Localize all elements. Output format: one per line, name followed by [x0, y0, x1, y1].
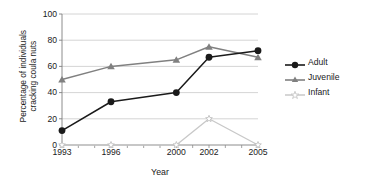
series-adult [59, 47, 262, 134]
series-infant [59, 115, 262, 148]
y-tick-label: 100 [32, 10, 57, 19]
legend-item-adult: Adult [284, 55, 362, 70]
legend-marker-filled-circle-icon [284, 57, 306, 69]
plot-svg [62, 14, 258, 145]
gridlines [62, 14, 258, 145]
x-axis-tick-labels: 19931996200020022005 [0, 148, 365, 162]
y-tick-label: 20 [32, 115, 57, 124]
series-juvenile [58, 43, 262, 82]
x-axis-title: Year [62, 168, 258, 177]
x-tick-label: 1993 [52, 148, 71, 157]
legend-marker-filled-triangle-icon [284, 72, 306, 84]
x-tick-label: 1996 [101, 148, 120, 157]
x-tick-label: 2002 [199, 148, 218, 157]
chart-legend: Adult Juvenile Infant [284, 55, 362, 100]
legend-item-juvenile: Juvenile [284, 70, 362, 85]
x-tick-label: 2000 [167, 148, 186, 157]
legend-label-adult: Adult [308, 58, 328, 67]
legend-marker-open-star-icon [284, 87, 306, 99]
legend-item-infant: Infant [284, 85, 362, 100]
legend-label-juvenile: Juvenile [308, 73, 340, 82]
plot-area [62, 14, 258, 145]
legend-label-infant: Infant [308, 88, 330, 97]
y-tick-label: 80 [32, 36, 57, 45]
x-tick-label: 2005 [248, 148, 267, 157]
y-tick-label: 40 [32, 88, 57, 97]
line-chart: Percentage of individuals cracking coula… [0, 0, 365, 189]
y-tick-label: 60 [32, 62, 57, 71]
